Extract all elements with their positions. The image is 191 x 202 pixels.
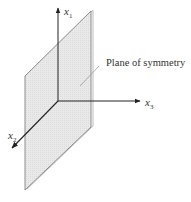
plane-of-symmetry-label: Plane of symmetry [106,57,186,68]
x3-axis-label: x3 [144,96,154,111]
symmetry-plane [25,10,93,190]
x1-axis-label: x1 [63,5,73,20]
symmetry-plane-diagram: x1 x3 x2 Plane of symmetry [0,0,191,202]
x2-axis-label: x2 [7,129,17,144]
